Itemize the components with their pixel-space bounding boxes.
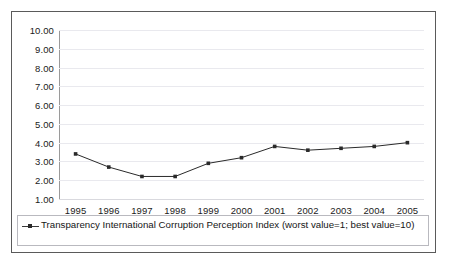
legend: Transparency International Corruption Pe… bbox=[17, 215, 429, 246]
data-point-marker bbox=[107, 165, 111, 169]
chart-figure: 10.009.008.007.006.005.004.003.002.001.0… bbox=[11, 11, 436, 253]
y-tick-label: 1.00 bbox=[35, 194, 54, 205]
data-point-marker bbox=[240, 156, 244, 160]
y-tick-label: 4.00 bbox=[35, 137, 54, 148]
series-polyline bbox=[76, 143, 408, 177]
data-point-marker bbox=[207, 162, 211, 166]
y-tick-label: 5.00 bbox=[35, 118, 54, 129]
data-point-marker bbox=[74, 152, 78, 156]
y-tick-label: 6.00 bbox=[35, 100, 54, 111]
series-line-cpi bbox=[59, 30, 424, 199]
data-point-marker bbox=[306, 148, 310, 152]
legend-series-marker-icon bbox=[22, 221, 39, 233]
plot-area: 10.009.008.007.006.005.004.003.002.001.0… bbox=[59, 30, 424, 199]
data-point-marker bbox=[406, 141, 410, 145]
legend-entry-label: Transparency International Corruption Pe… bbox=[39, 219, 414, 232]
data-point-marker bbox=[372, 145, 376, 149]
y-tick-label: 8.00 bbox=[35, 62, 54, 73]
y-tick-label: 3.00 bbox=[35, 156, 54, 167]
data-point-marker bbox=[140, 175, 144, 179]
gridline bbox=[59, 199, 424, 200]
y-tick-label: 10.00 bbox=[30, 25, 54, 36]
y-tick-label: 7.00 bbox=[35, 81, 54, 92]
data-point-marker bbox=[173, 175, 177, 179]
data-point-marker bbox=[273, 145, 277, 149]
data-point-marker bbox=[339, 147, 343, 151]
y-tick-label: 9.00 bbox=[35, 43, 54, 54]
y-tick-label: 2.00 bbox=[35, 175, 54, 186]
